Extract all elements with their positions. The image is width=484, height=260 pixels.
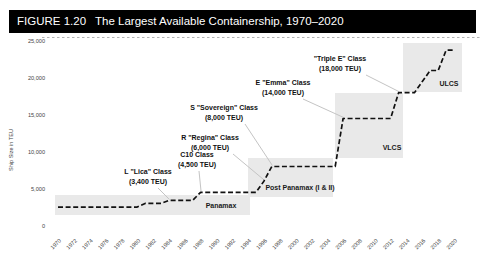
y-axis-title: Ship Size in TEU [8, 129, 14, 171]
x-tick-1984: 1984 [160, 237, 173, 250]
x-tick-1996: 1996 [255, 237, 268, 250]
x-tick-2020: 2020 [445, 237, 458, 250]
x-tick-1972: 1972 [65, 237, 78, 250]
x-tick-1970: 1970 [49, 237, 62, 250]
annotation-regina-teu: (6,000 TEU) [191, 144, 229, 152]
x-tick-2004: 2004 [318, 237, 331, 250]
figure-1-20: FIGURE 1.20The Largest Available Contain… [0, 0, 484, 260]
y-tick-5,000: 5,000 [31, 186, 45, 192]
region-label-ulcs: ULCS [439, 80, 458, 87]
annotation-sovereign-teu: (8,000 TEU) [205, 114, 243, 122]
leader-triple_e [366, 75, 399, 92]
annotation-emma-name: E "Emma" Class [256, 79, 311, 86]
annotation-emma-teu: (14,000 TEU) [262, 89, 304, 97]
region-label-panamax: Panamax [206, 202, 237, 209]
x-tick-2018: 2018 [429, 237, 442, 250]
x-tick-1998: 1998 [271, 237, 284, 250]
y-tick-15,000: 15,000 [28, 112, 45, 118]
x-tick-1974: 1974 [81, 237, 94, 250]
x-tick-2002: 2002 [303, 237, 316, 250]
x-tick-2000: 2000 [287, 237, 300, 250]
x-tick-1988: 1988 [192, 237, 205, 250]
y-tick-10,000: 10,000 [28, 149, 45, 155]
x-tick-1982: 1982 [144, 237, 157, 250]
x-tick-1980: 1980 [128, 237, 141, 250]
x-tick-1986: 1986 [176, 237, 189, 250]
x-tick-1978: 1978 [113, 237, 126, 250]
x-tick-1976: 1976 [97, 237, 110, 250]
annotation-c10-name: C10 Class [180, 151, 214, 158]
x-tick-1994: 1994 [239, 237, 252, 250]
containership-step-chart: Ship Size in TEU 05,00010,00015,00020,00… [0, 0, 484, 260]
y-tick-0: 0 [42, 223, 45, 229]
x-tick-1990: 1990 [208, 237, 221, 250]
annotation-c10-teu: (4,500 TEU) [178, 161, 216, 169]
y-tick-20,000: 20,000 [28, 75, 45, 81]
x-tick-2010: 2010 [366, 237, 379, 250]
x-tick-2008: 2008 [350, 237, 363, 250]
x-tick-2006: 2006 [334, 237, 347, 250]
annotation-lica-teu: (3,400 TEU) [129, 178, 167, 186]
region-label-post_panamax: Post Panamax (I & II) [265, 184, 334, 192]
x-tick-2016: 2016 [413, 237, 426, 250]
annotation-triple_e-name: "Triple E" Class [314, 55, 367, 63]
leader-c10 [199, 171, 201, 191]
x-axis: 1970197219741976197819801982198419861988… [49, 237, 458, 250]
y-axis: Ship Size in TEU 05,00010,00015,00020,00… [8, 38, 45, 229]
x-tick-2012: 2012 [382, 237, 395, 250]
y-tick-25,000: 25,000 [28, 38, 45, 44]
annotation-sovereign-name: S "Sovereign" Class [190, 104, 258, 112]
annotation-lica-name: L "Lica" Class [124, 168, 171, 175]
annotation-triple_e-teu: (18,000 TEU) [319, 65, 361, 73]
class-region-labels: PanamaxPost Panamax (I & II)VLCSULCS [206, 80, 459, 209]
annotation-regina-name: R "Regina" Class [181, 134, 239, 142]
x-tick-2014: 2014 [398, 237, 411, 250]
x-tick-1992: 1992 [223, 237, 236, 250]
region-label-vlcs: VLCS [383, 144, 402, 151]
